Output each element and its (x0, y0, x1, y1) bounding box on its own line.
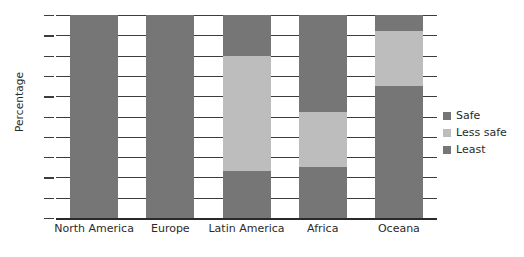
legend-label: Least (456, 144, 486, 155)
bar-segment-least (146, 56, 194, 218)
legend-item[interactable]: Least (443, 142, 521, 157)
y-axis-title: Percentage (13, 47, 25, 157)
y-tick-mark (44, 96, 54, 97)
y-tick-mark (44, 117, 54, 118)
bar-segment-safe (146, 15, 194, 56)
y-tick-mark (44, 15, 54, 16)
y-tick-mark (44, 198, 54, 199)
stacked-bar-chart: Percentage 1009080706050403020100 North … (0, 0, 524, 257)
bar-segment-safe (70, 15, 118, 19)
bar-segment-less-safe (223, 56, 271, 172)
legend-swatch-least (443, 146, 451, 154)
legend-item[interactable]: Less safe (443, 125, 521, 140)
bar-segment-least (299, 167, 347, 218)
y-tick-mark (44, 137, 54, 138)
bar-segment-least (223, 171, 271, 218)
legend-swatch-safe (443, 112, 451, 120)
bar-segment-less-safe (299, 112, 347, 167)
gridline (56, 218, 437, 220)
bar-segment-less-safe (375, 31, 423, 86)
y-tick-mark (44, 76, 54, 77)
legend-item[interactable]: Safe (443, 108, 521, 123)
legend: SafeLess safeLeast (443, 108, 521, 159)
bar-segment-least (375, 86, 423, 218)
bar-segment-safe (299, 15, 347, 112)
y-tick-mark (44, 35, 54, 36)
bar-segment-least (70, 19, 118, 218)
bar-north-america[interactable] (70, 15, 118, 218)
bar-segment-safe (375, 15, 423, 31)
y-tick-mark (44, 218, 54, 219)
y-tick-mark (44, 157, 54, 158)
legend-label: Safe (456, 110, 480, 121)
plot-area (56, 15, 437, 218)
bar-africa[interactable] (299, 15, 347, 218)
legend-swatch-less-safe (443, 129, 451, 137)
x-tick-label: Oceana (339, 222, 459, 235)
bar-oceana[interactable] (375, 15, 423, 218)
y-tick-mark (44, 177, 54, 178)
y-tick-mark (44, 56, 54, 57)
bar-latin-america[interactable] (223, 15, 271, 218)
bar-europe[interactable] (146, 15, 194, 218)
bar-segment-safe (223, 15, 271, 56)
legend-label: Less safe (456, 127, 507, 138)
